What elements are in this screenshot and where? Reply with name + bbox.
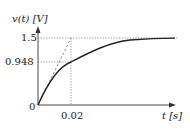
chart: v(t) [V] 1.5 0.948 0 0.02 t [s] [0, 0, 190, 129]
origin-label: 0 [29, 102, 35, 112]
x-axis-label: t [s] [162, 111, 182, 121]
y-tick-0-948: 0.948 [5, 57, 34, 67]
x-tick-0-02: 0.02 [61, 111, 83, 121]
y-tick-1-5: 1.5 [21, 33, 37, 43]
y-axis-label: v(t) [V] [12, 14, 48, 24]
response-curve [38, 38, 175, 105]
x-axis-arrow-icon [169, 103, 176, 108]
